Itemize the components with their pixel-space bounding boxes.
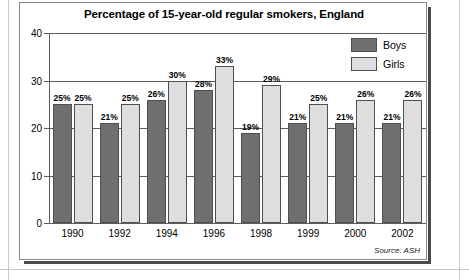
figure-shadow-bottom <box>24 261 431 264</box>
y-tick-label-40: 40 <box>20 28 42 39</box>
legend-swatch-boys-icon <box>351 38 377 52</box>
bar-label-boys-2002: 21% <box>383 112 400 122</box>
bar-label-girls-1998: 29% <box>263 74 280 84</box>
x-tick-label-1994: 1994 <box>156 228 178 239</box>
bar-boys-2000 <box>335 123 354 223</box>
x-axis-line <box>49 223 426 224</box>
bar-boys-1992 <box>100 123 119 223</box>
y-tick-label-10: 10 <box>20 170 42 181</box>
source-note: Source: ASH <box>374 246 420 255</box>
y-tick-label-0: 0 <box>20 218 42 229</box>
y-tick-label-20: 20 <box>20 123 42 134</box>
bar-boys-1994 <box>147 100 166 224</box>
bar-label-boys-1992: 21% <box>101 112 118 122</box>
chart-title: Percentage of 15-year-old regular smoker… <box>20 8 428 20</box>
bar-girls-2000 <box>356 100 375 224</box>
page-rule-bottom <box>0 269 469 270</box>
bar-label-boys-1990: 25% <box>54 93 71 103</box>
bar-label-boys-1998: 19% <box>242 122 259 132</box>
bar-boys-1998 <box>241 133 260 223</box>
bar-label-boys-1994: 26% <box>148 89 165 99</box>
bar-girls-1992 <box>121 104 140 223</box>
x-tick-label-1990: 1990 <box>61 228 83 239</box>
bar-label-girls-1992: 25% <box>122 93 139 103</box>
x-tick-label-1998: 1998 <box>250 228 272 239</box>
bar-label-girls-1999: 25% <box>310 93 327 103</box>
bar-girls-2002 <box>403 100 422 224</box>
x-tick-label-2002: 2002 <box>391 228 413 239</box>
page-rule-left <box>8 0 9 280</box>
legend-label-boys: Boys <box>383 39 406 51</box>
page-rule-right <box>459 0 460 280</box>
bar-label-girls-2002: 26% <box>404 89 421 99</box>
bar-label-girls-1994: 30% <box>169 70 186 80</box>
bar-boys-1999 <box>288 123 307 223</box>
legend-swatch-girls-icon <box>351 57 377 71</box>
x-tick-label-2000: 2000 <box>344 228 366 239</box>
x-tick-label-1996: 1996 <box>203 228 225 239</box>
chart-figure: Percentage of 15-year-old regular smoker… <box>19 2 427 260</box>
bar-boys-1990 <box>53 104 72 223</box>
legend-item-boys: Boys <box>351 36 423 53</box>
y-tick-label-30: 30 <box>20 75 42 86</box>
chart-legend: Boys Girls <box>351 36 423 74</box>
bar-label-boys-2000: 21% <box>336 112 353 122</box>
bar-boys-1996 <box>194 90 213 223</box>
page-background: Percentage of 15-year-old regular smoker… <box>0 0 469 280</box>
y-tick-0 <box>44 223 49 224</box>
bar-label-boys-1996: 28% <box>195 79 212 89</box>
bar-girls-1996 <box>215 66 234 223</box>
legend-item-girls: Girls <box>351 55 423 72</box>
bar-girls-1999 <box>309 104 328 223</box>
bar-label-girls-1996: 33% <box>216 55 233 65</box>
bar-label-girls-2000: 26% <box>357 89 374 99</box>
bar-girls-1990 <box>74 104 93 223</box>
bar-girls-1998 <box>262 85 281 223</box>
x-tick-label-1999: 1999 <box>297 228 319 239</box>
bar-label-girls-1990: 25% <box>75 93 92 103</box>
bar-girls-1994 <box>168 81 187 224</box>
x-tick-label-1992: 1992 <box>109 228 131 239</box>
figure-shadow-right <box>428 7 431 263</box>
bar-label-boys-1999: 21% <box>289 112 306 122</box>
legend-label-girls: Girls <box>383 58 405 70</box>
bar-boys-2002 <box>382 123 401 223</box>
